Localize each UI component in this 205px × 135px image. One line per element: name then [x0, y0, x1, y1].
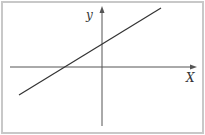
- x-axis-label: X: [185, 71, 195, 85]
- y-axis-label: y: [85, 8, 93, 22]
- diagram-frame: y X: [0, 0, 205, 135]
- coordinate-plane: y X: [0, 0, 205, 135]
